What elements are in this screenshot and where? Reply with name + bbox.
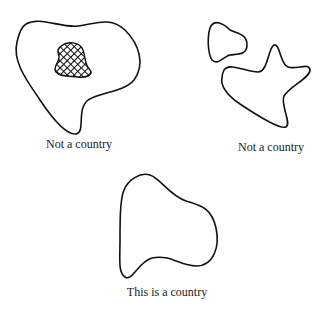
figure-enclave <box>16 21 140 134</box>
label-connected: This is a country <box>127 285 207 300</box>
label-enclave: Not a country <box>46 137 112 152</box>
country-diagram <box>0 0 325 317</box>
label-disconnected: Not a country <box>238 140 304 155</box>
figure-connected <box>120 174 217 277</box>
large-star-shape <box>222 45 310 128</box>
country-shape <box>120 174 217 277</box>
small-island-shape <box>208 23 247 62</box>
figure-disconnected <box>208 23 310 128</box>
enclave-hatched-shape <box>55 43 91 77</box>
